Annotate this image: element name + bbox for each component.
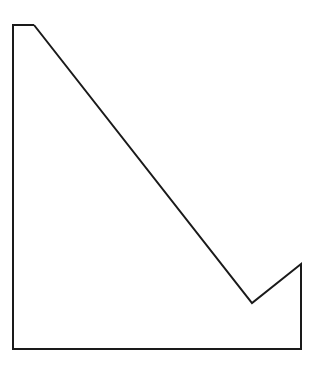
polygon-outline-path [13,25,301,349]
drawing-canvas [0,0,315,365]
polygon-figure [0,0,315,365]
